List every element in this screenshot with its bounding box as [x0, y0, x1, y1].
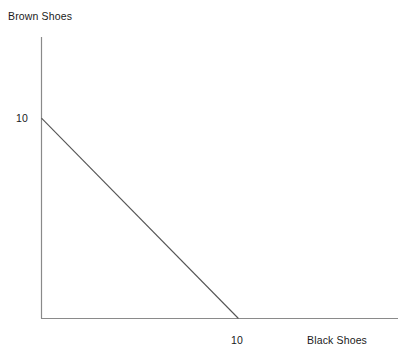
budget-constraint-line	[42, 118, 239, 318]
y-axis-tick-label-10: 10	[16, 112, 28, 124]
budget-constraint-chart: Brown Shoes 10 10 Black Shoes	[0, 0, 411, 355]
x-axis-tick-label-10: 10	[231, 334, 243, 346]
y-axis-title: Brown Shoes	[8, 10, 72, 22]
x-axis-title: Black Shoes	[307, 334, 367, 346]
plot-area	[0, 0, 411, 355]
